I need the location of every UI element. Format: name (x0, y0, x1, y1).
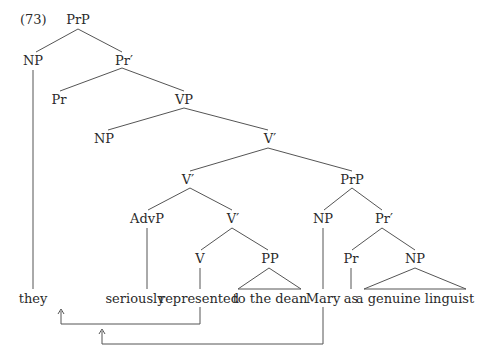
node-pr-small: Pr (344, 251, 359, 267)
branch-prbar-pr-small (352, 228, 382, 250)
node-np-pred: NP (405, 251, 425, 267)
branch-vbar-pp (232, 228, 268, 250)
branch-prp-prbar (78, 29, 122, 52)
node-v-bar-low: V′ (227, 211, 239, 227)
word-represented: represented (159, 291, 239, 307)
node-prp-small: PrP (340, 172, 364, 188)
node-np-mary: NP (313, 211, 333, 227)
word-mary: Mary (306, 291, 341, 307)
tree-branches (0, 0, 489, 362)
movement-arrow-verb (61, 307, 200, 324)
branch-vbar-vbar-low (190, 188, 232, 210)
node-v-bar-mid: V′ (182, 172, 194, 188)
branch-prp-prbar-small (352, 188, 382, 210)
node-prp-root: PrP (66, 12, 90, 28)
node-pr-bar-small: Pr′ (375, 211, 393, 227)
branch-prbar-pr (60, 68, 122, 91)
branch-vbar-vbar (190, 148, 268, 171)
word-a-genuine-linguist: a genuine linguist (356, 291, 474, 307)
branch-vbar-v (201, 228, 232, 250)
word-seriously: seriously (105, 291, 164, 307)
word-they: they (19, 291, 48, 307)
word-to-the-dean: to the dean (233, 291, 308, 307)
node-np-spec-vp: NP (94, 131, 114, 147)
branch-vp-vbar (184, 108, 268, 130)
branch-prbar-np-pred (382, 228, 415, 250)
node-vp: VP (175, 92, 193, 108)
node-pr-top: Pr (52, 92, 67, 108)
movement-arrow-mary (102, 307, 323, 344)
node-np-subject: NP (23, 53, 43, 69)
node-pr-bar-top: Pr′ (115, 53, 133, 69)
branch-vp-np (108, 108, 184, 130)
node-v: V (195, 251, 204, 267)
branch-prbar-vp (122, 68, 184, 91)
branch-prp-np-mary (324, 188, 352, 210)
node-v-bar-top: V′ (264, 131, 276, 147)
syntax-tree-diagram: (73) PrP NP Pr′ Pr VP NP V′ V′ PrP AdvP … (0, 0, 489, 362)
triangle-np-pred (364, 268, 466, 289)
node-advp: AdvP (130, 211, 164, 227)
branch-vbar-advp (148, 188, 190, 210)
triangle-pp (238, 268, 301, 289)
branch-vbar-prp (268, 148, 352, 171)
node-pp: PP (261, 251, 279, 267)
example-number: (73) (20, 12, 47, 28)
branch-prp-np (36, 29, 78, 52)
